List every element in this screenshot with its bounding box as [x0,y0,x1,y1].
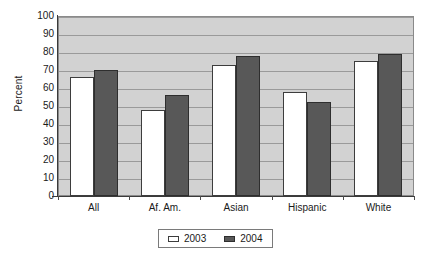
legend-swatch-icon [168,236,179,242]
y-tick-label: 70 [43,65,54,75]
x-tick-mark [343,196,344,200]
x-category-label: Asian [200,202,271,213]
x-tick-mark [272,196,273,200]
x-tick-mark [129,196,130,200]
bar[interactable] [307,102,331,196]
x-category-label: All [58,202,129,213]
x-category-label: Af. Am. [129,202,200,213]
x-category-label: White [343,202,414,213]
bar[interactable] [94,70,118,196]
bar-groups [58,16,414,196]
bar-group [129,16,200,196]
legend-item[interactable]: 2004 [224,233,262,244]
x-axis-category-labels: AllAf. Am.AsianHispanicWhite [58,202,414,213]
bar[interactable] [236,56,260,196]
y-tick-label: 80 [43,47,54,57]
legend-label: 2004 [240,233,262,244]
bar[interactable] [378,54,402,196]
bar[interactable] [354,61,378,196]
x-axis-tick-marks [58,196,414,201]
y-axis-tick-labels: 1009080706050403020100 [28,16,54,196]
x-tick-mark [414,196,415,200]
x-tick-mark [200,196,201,200]
bar-group [343,16,414,196]
y-tick-label: 30 [43,137,54,147]
bar[interactable] [70,77,94,196]
bar-group [200,16,271,196]
bar[interactable] [283,92,307,196]
bar[interactable] [212,65,236,196]
legend-item[interactable]: 2003 [168,233,206,244]
y-axis-title: Percent [13,64,24,124]
y-tick-label: 50 [43,101,54,111]
y-tick-label: 60 [43,83,54,93]
bar-group [58,16,129,196]
legend-swatch-icon [224,236,235,242]
legend: 20032004 [158,229,273,248]
y-tick-label: 90 [43,29,54,39]
legend-label: 2003 [184,233,206,244]
x-category-label: Hispanic [272,202,343,213]
y-tick-label: 100 [37,11,54,21]
y-tick-label: 10 [43,173,54,183]
bar-group [272,16,343,196]
y-tick-label: 20 [43,155,54,165]
x-tick-mark [58,196,59,200]
bar-chart: Percent 1009080706050403020100 AllAf. Am… [0,0,434,263]
y-tick-label: 40 [43,119,54,129]
bar[interactable] [165,95,189,196]
bar[interactable] [141,110,165,196]
